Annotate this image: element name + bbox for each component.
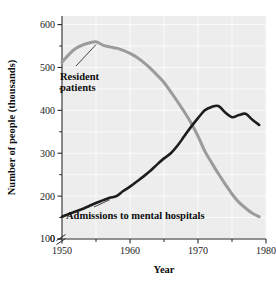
y-tick-label: 500 xyxy=(40,62,55,73)
y-tick-label: 400 xyxy=(40,105,55,116)
y-tick-label: 200 xyxy=(40,191,55,202)
line-chart-svg: 0100200300400500600 1950196019701980 Res… xyxy=(0,0,276,287)
x-tick-label: 1970 xyxy=(188,245,208,256)
x-tick-label: 1980 xyxy=(256,245,276,256)
y-tick-label: 300 xyxy=(40,148,55,159)
x-tick-label: 1950 xyxy=(52,245,72,256)
y-tick-label: 100 xyxy=(40,233,55,244)
y-tick-label: 600 xyxy=(40,19,55,30)
y-axis-title: Number of people (thousands) xyxy=(6,59,18,195)
annotation-resident-patients-line2: patients xyxy=(60,82,96,93)
x-axis-title: Year xyxy=(154,264,175,275)
annotation-resident-patients-line1: Resident xyxy=(60,71,100,82)
annotation-admissions-line1: Admissions to mental hospitals xyxy=(66,210,205,221)
chart-figure: 0100200300400500600 1950196019701980 Res… xyxy=(0,0,276,287)
x-tick-label: 1960 xyxy=(120,245,140,256)
